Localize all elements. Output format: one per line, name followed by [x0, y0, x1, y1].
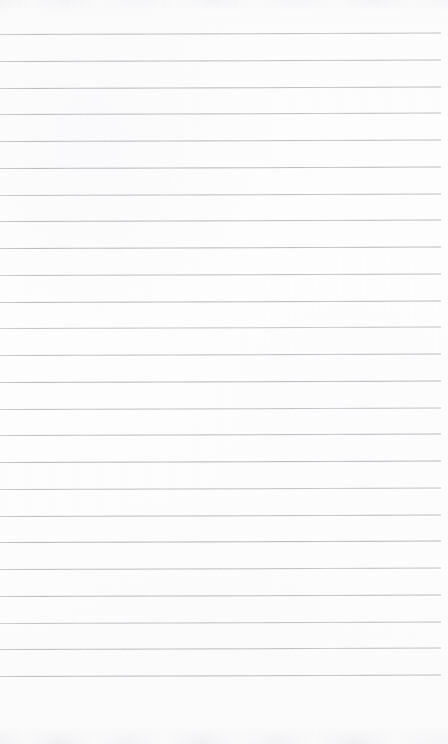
- rule-line: [0, 273, 441, 276]
- rule-line: [0, 621, 441, 624]
- rule-line: [0, 140, 441, 142]
- rule-line: [0, 113, 441, 115]
- rule-line: [0, 354, 441, 357]
- rule-line: [0, 407, 441, 410]
- rule-line: [0, 33, 441, 35]
- rule-line: [0, 193, 441, 195]
- rule-line: [0, 166, 441, 168]
- rule-line: [0, 434, 441, 437]
- scanned-notebook-page: [0, 0, 448, 744]
- rule-line: [0, 541, 441, 544]
- rule-line: [0, 59, 441, 61]
- rule-line: [0, 86, 441, 88]
- rule-line: [0, 247, 441, 249]
- rule-line: [0, 514, 441, 517]
- rule-line: [0, 594, 441, 597]
- rule-line: [0, 220, 441, 222]
- rule-line: [0, 461, 441, 464]
- rule-line: [0, 487, 441, 490]
- rule-line: [0, 300, 441, 303]
- rule-line: [0, 327, 441, 330]
- rule-line: [0, 648, 441, 651]
- rule-line: [0, 675, 441, 678]
- ruled-writing-area: [0, 0, 448, 744]
- rule-line: [0, 568, 441, 571]
- rule-line: [0, 380, 441, 383]
